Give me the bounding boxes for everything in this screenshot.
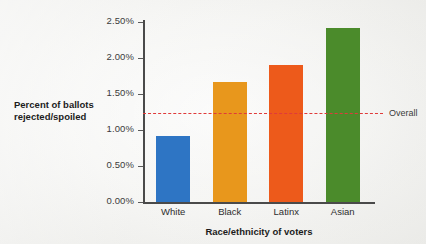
y-axis-title-line-2: rejected/spoiled [14,111,134,123]
bar-black[interactable] [213,82,247,202]
y-axis-tick-label: 1.00% [107,123,134,134]
y-axis-tick-label: 1.50% [107,87,134,98]
x-axis-title: Race/ethnicity of voters [143,226,375,237]
bar-asian[interactable] [326,28,360,202]
x-axis-category-label: Asian [331,206,355,217]
x-axis-line [143,202,375,204]
y-axis-tick: 1.00% [138,130,143,131]
y-axis-tick: 2.50% [138,22,143,23]
overall-reference-line [143,113,383,114]
bar-chart-figure: Percent of ballots rejected/spoiled 0.00… [0,0,426,244]
y-axis-tick-label: 2.00% [107,51,134,62]
plot-area: 0.00%0.50%1.00%1.50%2.00%2.50% WhiteBlac… [143,22,371,202]
y-axis-tick-label: 2.50% [107,15,134,26]
y-axis-tick: 0.00% [138,202,143,203]
y-axis-tick-label: 0.50% [107,159,134,170]
y-axis-tick: 1.50% [138,94,143,95]
x-axis-category-label: Black [218,206,241,217]
overall-reference-label: Overall [389,108,418,118]
bar-white[interactable] [156,136,190,202]
y-axis-tick-label: 0.00% [107,195,134,206]
y-axis-tick: 0.50% [138,166,143,167]
x-axis-category-label: Latinx [274,206,299,217]
y-axis-title: Percent of ballots rejected/spoiled [14,99,134,123]
x-axis-category-label: White [161,206,185,217]
y-axis-tick: 2.00% [138,58,143,59]
y-axis-title-line-1: Percent of ballots [14,99,134,111]
bar-latinx[interactable] [269,65,303,202]
